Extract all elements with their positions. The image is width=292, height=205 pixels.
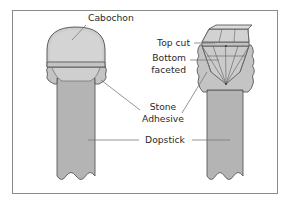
label-bottom: Bottom [152,52,186,63]
dopstick-right [207,90,243,180]
diagram-canvas: Cabochon Top cut Bottom faceted Stone Ad… [0,0,292,205]
label-faceted: faceted [151,64,186,75]
dopstick-left [57,78,95,180]
faceted-stone-crown [202,29,249,42]
facet-girdle-dot [225,45,227,47]
label-adhesive: Adhesive [142,113,184,124]
label-cabochon: Cabochon [88,12,134,23]
faceted-stone-table [209,25,252,29]
label-dopstick: Dopstick [145,134,186,145]
dopstick-diagram: Cabochon Top cut Bottom faceted Stone Ad… [0,0,292,205]
label-stone: Stone [150,101,177,112]
facet-apex-dot [225,83,227,85]
cabochon-base-band [47,62,105,67]
label-top-cut: Top cut [156,37,190,48]
cabochon-highlight [50,30,102,62]
adhesive-left-inner-line [52,68,100,81]
